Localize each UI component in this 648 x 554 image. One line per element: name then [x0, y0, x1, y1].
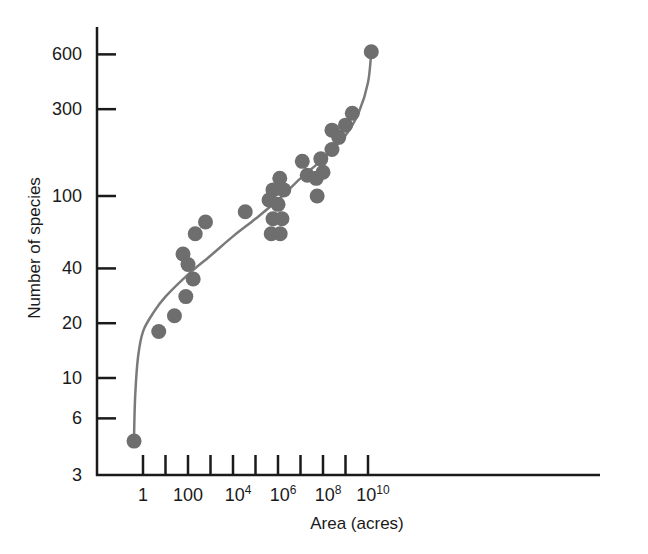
x-tick-label: 1010 — [356, 483, 390, 505]
data-point — [274, 211, 289, 226]
y-tick-label: 20 — [62, 313, 82, 333]
data-point — [198, 214, 213, 229]
data-point — [188, 226, 203, 241]
y-tick-label: 10 — [62, 368, 82, 388]
data-point — [295, 154, 310, 169]
x-tick-label: 104 — [225, 483, 252, 505]
data-point — [310, 189, 325, 204]
y-tick-label: 3 — [72, 465, 82, 485]
y-tick-label: 40 — [62, 258, 82, 278]
fitted-curve-path — [134, 52, 371, 436]
y-tick-label: 6 — [72, 408, 82, 428]
data-point — [271, 197, 286, 212]
x-axis-ticks: 11001041061081010 — [138, 455, 390, 505]
data-point — [364, 44, 379, 59]
x-tick-label: 100 — [173, 485, 203, 505]
fitted-curve — [134, 52, 371, 436]
species-area-chart: 36102040100300600 11001041061081010 Area… — [0, 0, 648, 554]
x-axis-title: Area (acres) — [310, 514, 404, 533]
data-points — [127, 44, 379, 448]
data-point — [127, 434, 142, 449]
data-point — [345, 106, 360, 121]
x-tick-label: 108 — [315, 483, 342, 505]
y-tick-label: 600 — [52, 44, 82, 64]
data-point — [178, 289, 193, 304]
x-tick-label: 106 — [270, 483, 297, 505]
data-point — [316, 165, 331, 180]
data-point — [151, 324, 166, 339]
y-axis-title: Number of species — [25, 177, 44, 319]
y-tick-label: 100 — [52, 186, 82, 206]
data-point — [273, 226, 288, 241]
y-axis-ticks: 36102040100300600 — [52, 44, 116, 485]
x-tick-label: 1 — [138, 485, 148, 505]
axes — [96, 27, 600, 476]
data-point — [238, 204, 253, 219]
y-tick-label: 300 — [52, 99, 82, 119]
data-point — [186, 271, 201, 286]
data-point — [181, 257, 196, 272]
data-point — [167, 308, 182, 323]
data-point — [276, 182, 291, 197]
